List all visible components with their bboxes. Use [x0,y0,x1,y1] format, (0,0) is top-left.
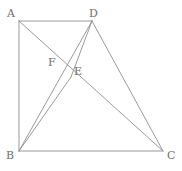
vertex-label-d: D [89,8,98,19]
vertex-label-e: E [74,66,82,77]
geometry-figure: ABCDEF [0,0,182,171]
segment-DC [92,21,163,151]
segment-DB [19,21,92,151]
figure-canvas [0,0,182,171]
segments-group [19,21,163,151]
vertex-label-f: F [48,57,56,68]
vertex-label-b: B [6,150,14,161]
vertex-label-c: C [167,150,175,161]
segment-AC [19,21,163,151]
segment-BE [19,77,71,151]
vertex-label-a: A [7,8,15,19]
